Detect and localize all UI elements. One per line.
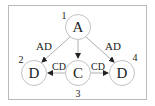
node-index: 2 [19, 54, 24, 65]
edge-label-3-2: CD [52, 61, 66, 72]
node-index: 3 [76, 88, 81, 99]
node-label: A [73, 19, 84, 35]
node-index: 4 [133, 52, 138, 63]
node-index: 1 [62, 10, 67, 21]
diagram-canvas: AD AD CD CD A 1 D 2 C 3 D 4 [0, 0, 155, 106]
edge-label-1-2: AD [36, 40, 52, 52]
node-1: A 1 [62, 10, 91, 40]
edge-label-3-4: CD [91, 61, 105, 72]
node-2: D 2 [19, 54, 47, 86]
node-label: D [29, 65, 40, 81]
edge-label-1-4: AD [105, 40, 121, 52]
node-label: C [73, 65, 83, 81]
node-4: D 4 [110, 52, 138, 86]
node-3: C 3 [66, 61, 91, 100]
node-label: D [117, 65, 128, 81]
